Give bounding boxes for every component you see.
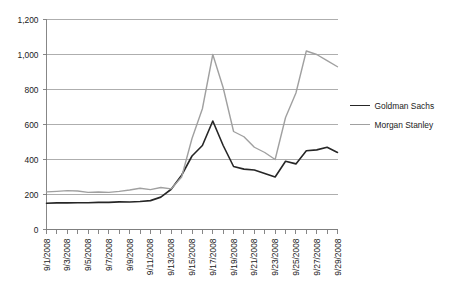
y-tick-label: 0 xyxy=(34,225,39,235)
x-tick-label: 9/21/2008 xyxy=(249,238,259,276)
x-tick-label: 9/17/2008 xyxy=(208,238,218,276)
chart-canvas: 02004006008001,0001,200 9/1/20089/3/2008… xyxy=(0,0,456,289)
legend-label-goldman-sachs: Goldman Sachs xyxy=(375,101,435,111)
x-tick-label: 9/15/2008 xyxy=(187,238,197,276)
y-tick-label: 400 xyxy=(25,155,39,165)
x-tick-label: 9/5/2008 xyxy=(83,238,93,271)
series-line-morgan-stanley xyxy=(47,51,338,192)
x-tick-label: 9/7/2008 xyxy=(104,238,114,271)
y-tick-label: 1,200 xyxy=(18,15,39,25)
line-chart: 02004006008001,0001,200 9/1/20089/3/2008… xyxy=(0,0,456,289)
series-line-goldman-sachs xyxy=(47,121,338,203)
legend-label-morgan-stanley: Morgan Stanley xyxy=(375,120,434,130)
y-tick-label: 1,000 xyxy=(18,50,39,60)
x-tick-label: 9/13/2008 xyxy=(166,238,176,276)
series-lines xyxy=(47,51,338,203)
x-tick-label: 9/19/2008 xyxy=(229,238,239,276)
x-tick-label: 9/3/2008 xyxy=(62,238,72,271)
gridlines xyxy=(47,20,338,230)
x-tick-label: 9/23/2008 xyxy=(270,238,280,276)
y-axis: 02004006008001,0001,200 xyxy=(18,15,47,235)
y-tick-label: 800 xyxy=(25,85,39,95)
x-axis: 9/1/20089/3/20089/5/20089/7/20089/9/2008… xyxy=(42,230,343,276)
x-tick-label: 9/29/2008 xyxy=(333,238,343,276)
chart-legend: Goldman SachsMorgan Stanley xyxy=(350,101,435,130)
x-tick-label: 9/11/2008 xyxy=(145,238,155,275)
x-tick-label: 9/25/2008 xyxy=(291,238,301,276)
y-tick-label: 600 xyxy=(25,120,39,130)
y-tick-label: 200 xyxy=(25,190,39,200)
x-tick-label: 9/9/2008 xyxy=(125,238,135,271)
x-tick-label: 9/1/2008 xyxy=(42,238,52,271)
x-tick-label: 9/27/2008 xyxy=(312,238,322,276)
